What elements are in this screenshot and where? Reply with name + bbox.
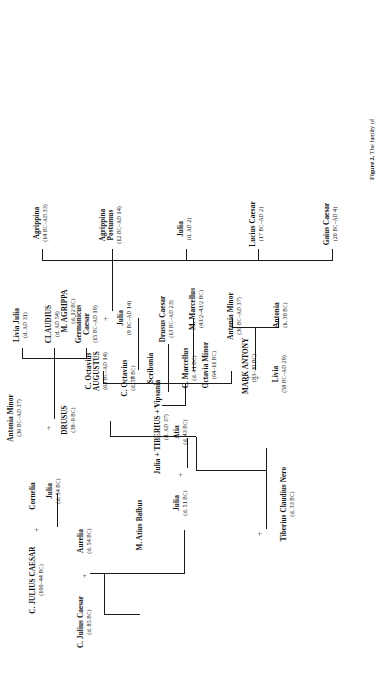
connector-horizontal bbox=[266, 448, 267, 471]
person-cornelia: Cornelia bbox=[30, 472, 38, 520]
connector-horizontal bbox=[266, 471, 267, 529]
connector-horizontal bbox=[86, 348, 87, 359]
person-dates: (63 BC–AD 14) bbox=[102, 349, 109, 393]
connector-horizontal bbox=[186, 249, 187, 261]
person-name: Germanicus Caesar bbox=[76, 301, 91, 347]
person-name: Agrippina Postumus bbox=[100, 201, 115, 249]
person-livia-julia: Livia Julia (d. AD 31) bbox=[14, 301, 29, 349]
person-c-julius-caesar: C. JULIUS CAESAR (100–44 BC) bbox=[30, 541, 45, 619]
connector-horizontal bbox=[168, 344, 169, 392]
person-dates: (d. 85 BC) bbox=[86, 585, 93, 659]
person-dates: (100–44 BC) bbox=[38, 541, 45, 619]
person-dates: (64–11 BC) bbox=[211, 337, 218, 393]
person-m-marcellus: M. Marcellus (43/2–43/2 BC) bbox=[190, 277, 205, 341]
person-antonia: Antonia (b. 39 BC) bbox=[274, 293, 289, 337]
person-germanicus-caesar: Germanicus Caesar (15 BC–AD 19) bbox=[76, 301, 98, 347]
person-julia-9bc: Julia (9 BC–AD 14) bbox=[118, 299, 133, 337]
family-tree-figure: C. Julius Caesar (d. 85 BC) + Aurelia (d… bbox=[0, 0, 380, 677]
person-dates: (36 BC–AD 37) bbox=[16, 389, 23, 447]
person-julia-ad2: Julia (d. AD 2) bbox=[178, 209, 193, 249]
marriage-symbol: + bbox=[177, 473, 185, 477]
figure-caption-text: The family of bbox=[368, 119, 375, 154]
person-name: CLAUDIUS bbox=[46, 299, 54, 349]
person-dates: (58 BC–AD 29) bbox=[281, 352, 288, 396]
person-dates: (d. 33 BC) bbox=[289, 465, 296, 543]
person-atia: Atia (d. 43 BC) bbox=[174, 412, 189, 452]
person-dates: (b. 39 BC) bbox=[282, 293, 289, 337]
person-gaius-caesar: Gaius Caesar (20 BC–AD 4) bbox=[324, 197, 339, 251]
person-drusus: DRUSUS (38–9 BC) bbox=[62, 396, 77, 444]
connector-horizontal bbox=[104, 573, 105, 615]
person-dates: (d. 54 BC) bbox=[55, 469, 62, 513]
person-name: C. Octavius AUGUSTUS bbox=[86, 349, 101, 393]
person-dates: (43/2–43/2 BC) bbox=[198, 277, 205, 341]
connector-horizontal bbox=[54, 359, 55, 419]
marriage-symbol: + bbox=[128, 376, 136, 380]
person-agrippina: Agrippina (14 BC–AD 33) bbox=[34, 195, 49, 251]
connector-horizontal bbox=[231, 371, 232, 384]
person-dates: (d. 51 BC) bbox=[182, 481, 189, 525]
person-dates: (17 BC–AD 2) bbox=[258, 197, 265, 251]
person-dates: (d. AD 31) bbox=[22, 301, 29, 349]
connector-vertical bbox=[196, 470, 266, 471]
person-dates: (d. AD 2) bbox=[186, 209, 193, 249]
person-octavia-minor: Octavia Minor (64–11 BC) bbox=[203, 337, 218, 393]
connector-horizontal bbox=[110, 421, 111, 437]
person-dates: (d. 54 BC) bbox=[86, 515, 93, 567]
person-julia-51: Julia (d. 51 BC) bbox=[174, 481, 189, 525]
connector-vertical bbox=[110, 436, 196, 437]
person-dates: (15 BC–AD 19) bbox=[92, 301, 99, 347]
connector-vertical bbox=[104, 614, 140, 615]
person-drusus-caesar: Drusus Caesar (13 BC–AD 23) bbox=[160, 291, 175, 347]
person-dates: (d. 43 BC) bbox=[182, 412, 189, 452]
person-dates: (d. AD 54) bbox=[54, 299, 61, 349]
marriage-symbol: + bbox=[256, 532, 264, 536]
person-dates: (9 BC–AD 14) bbox=[126, 299, 133, 337]
person-name: Cornelia bbox=[30, 472, 38, 520]
person-dates: (13 BC–AD 23) bbox=[168, 291, 175, 347]
person-dates: (38–9 BC) bbox=[70, 396, 77, 444]
person-livia: Livia (58 BC–AD 29) bbox=[273, 352, 288, 396]
figure-caption: Figure 2. The family of bbox=[368, 119, 375, 180]
person-julia-54: Julia (d. 54 BC) bbox=[47, 469, 62, 513]
connector-vertical bbox=[90, 573, 104, 574]
person-name: Gaius Caesar bbox=[324, 197, 332, 251]
person-m-atius-balbus: M. Atius Balbus bbox=[137, 493, 145, 557]
connector-horizontal bbox=[112, 261, 113, 311]
connector-horizontal bbox=[112, 249, 113, 261]
connector-horizontal bbox=[255, 328, 256, 370]
person-aurelia: Aurelia (d. 54 BC) bbox=[78, 515, 93, 567]
connector-horizontal bbox=[22, 348, 23, 359]
figure-caption-label: Figure 2. bbox=[368, 156, 375, 180]
connector-horizontal bbox=[184, 530, 185, 574]
family-tree-canvas: C. Julius Caesar (d. 85 BC) + Aurelia (d… bbox=[0, 0, 380, 677]
person-dates: (36 BC–AD 37) bbox=[236, 287, 243, 345]
person-dates: (20 BC–AD 4) bbox=[332, 197, 339, 251]
marriage-symbol: + bbox=[81, 574, 89, 578]
person-name: Livia Julia bbox=[14, 301, 22, 349]
person-claudius: CLAUDIUS (d. AD 54) bbox=[46, 299, 61, 349]
person-c-julius-caesar-elder: C. Julius Caesar (d. 85 BC) bbox=[78, 585, 93, 659]
person-name: Lucius Caesar bbox=[250, 197, 258, 251]
person-name: M. Atius Balbus bbox=[137, 493, 145, 557]
person-lucius-caesar: Lucius Caesar (17 BC–AD 2) bbox=[250, 197, 265, 251]
person-name: Julia + TIBERIUS + Vipsania bbox=[155, 375, 163, 479]
connector-horizontal bbox=[54, 348, 55, 359]
person-dates: (14 BC–AD 33) bbox=[42, 195, 49, 251]
person-name: Julia bbox=[178, 209, 186, 249]
marriage-symbol: + bbox=[45, 426, 53, 430]
person-c-octavius-augustus: C. Octavius AUGUSTUS (63 BC–AD 14) bbox=[86, 349, 108, 393]
marriage-symbol: + bbox=[102, 317, 110, 321]
person-c-marcellus: C. Marcellus (d. 41 BC) bbox=[183, 343, 198, 393]
person-dates: (12 BC–AD 14) bbox=[116, 201, 123, 249]
person-tiberius-claudius-nero: Tiberius Claudius Nero (d. 33 BC) bbox=[281, 465, 296, 543]
connector-horizontal bbox=[196, 437, 197, 471]
person-agrippina-postumus: Agrippina Postumus (12 BC–AD 14) bbox=[100, 201, 122, 249]
person-antonia-minor: Antonia Minor (36 BC–AD 37) bbox=[228, 287, 243, 345]
connector-horizontal bbox=[138, 318, 139, 370]
connector-vertical bbox=[42, 260, 332, 261]
connector-vertical bbox=[104, 573, 184, 574]
marriage-symbol: + bbox=[33, 528, 41, 532]
person-antonia-minor-spouse: Antonia Minor (36 BC–AD 37) bbox=[8, 389, 23, 447]
